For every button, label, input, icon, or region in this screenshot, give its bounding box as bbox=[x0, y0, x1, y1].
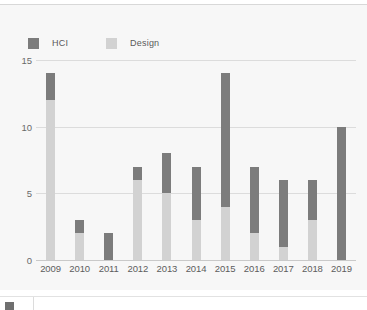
bar-segment-hci[interactable] bbox=[133, 167, 142, 180]
bar-segment-hci[interactable] bbox=[337, 127, 346, 260]
x-axis-tick: 2019 bbox=[327, 263, 356, 274]
bar-stack[interactable] bbox=[75, 220, 84, 260]
plot-area: 15 10 5 0 200920102011201220132014201520… bbox=[0, 5, 367, 291]
bar-segment-hci[interactable] bbox=[308, 180, 317, 220]
y-axis-tick: 10 bbox=[21, 121, 32, 132]
bar-segment-design[interactable] bbox=[250, 233, 259, 260]
bar-segment-hci[interactable] bbox=[250, 167, 259, 234]
bar-stack[interactable] bbox=[250, 167, 259, 260]
bar-segment-hci[interactable] bbox=[75, 220, 84, 233]
bar-column[interactable] bbox=[94, 60, 123, 260]
x-axis-tick: 2018 bbox=[298, 263, 327, 274]
bar-column[interactable] bbox=[36, 60, 65, 260]
x-axis-tick: 2015 bbox=[211, 263, 240, 274]
bar-segment-design[interactable] bbox=[133, 180, 142, 260]
x-axis-tick: 2010 bbox=[65, 263, 94, 274]
bar-column[interactable] bbox=[327, 60, 356, 260]
bar-column[interactable] bbox=[240, 60, 269, 260]
bottom-chip-icon bbox=[5, 302, 14, 310]
bar-segment-hci[interactable] bbox=[162, 153, 171, 193]
bar-stack[interactable] bbox=[279, 180, 288, 260]
bar-stack[interactable] bbox=[192, 167, 201, 260]
bar-segment-design[interactable] bbox=[221, 207, 230, 260]
bar-segment-design[interactable] bbox=[192, 220, 201, 260]
bar-segment-hci[interactable] bbox=[279, 180, 288, 247]
bar-stack[interactable] bbox=[162, 153, 171, 260]
x-axis: 2009201020112012201320142015201620172018… bbox=[36, 263, 356, 274]
bar-segment-design[interactable] bbox=[308, 220, 317, 260]
bar-segment-hci[interactable] bbox=[221, 73, 230, 206]
x-axis-tick: 2013 bbox=[152, 263, 181, 274]
bar-column[interactable] bbox=[269, 60, 298, 260]
bar-column[interactable] bbox=[123, 60, 152, 260]
y-axis-tick: 0 bbox=[27, 255, 32, 266]
bar-column[interactable] bbox=[152, 60, 181, 260]
gridline-0 bbox=[36, 260, 356, 261]
chart-page: HCI Design 15 10 5 0 20092010201120122 bbox=[0, 0, 367, 310]
x-axis-tick: 2012 bbox=[123, 263, 152, 274]
bar-stack[interactable] bbox=[337, 127, 346, 260]
bar-segment-hci[interactable] bbox=[104, 233, 113, 260]
bar-column[interactable] bbox=[211, 60, 240, 260]
x-axis-tick: 2017 bbox=[269, 263, 298, 274]
y-axis-tick: 5 bbox=[27, 188, 32, 199]
x-axis-tick: 2014 bbox=[181, 263, 210, 274]
chart-card: HCI Design 15 10 5 0 20092010201120122 bbox=[0, 4, 367, 290]
bar-stack[interactable] bbox=[46, 73, 55, 260]
bar-segment-design[interactable] bbox=[75, 233, 84, 260]
y-axis-tick: 15 bbox=[21, 55, 32, 66]
bar-segment-design[interactable] bbox=[162, 193, 171, 260]
bar-column[interactable] bbox=[298, 60, 327, 260]
y-axis: 15 10 5 0 bbox=[10, 60, 32, 260]
bar-segment-design[interactable] bbox=[279, 247, 288, 260]
bottom-strip bbox=[0, 296, 367, 310]
x-axis-tick: 2009 bbox=[36, 263, 65, 274]
x-axis-tick: 2016 bbox=[240, 263, 269, 274]
bar-stack[interactable] bbox=[133, 167, 142, 260]
bar-segment-hci[interactable] bbox=[46, 73, 55, 100]
bar-segment-design[interactable] bbox=[46, 100, 55, 260]
bottom-divider bbox=[33, 297, 34, 310]
bar-stack[interactable] bbox=[104, 233, 113, 260]
x-axis-tick: 2011 bbox=[94, 263, 123, 274]
bar-stack[interactable] bbox=[308, 180, 317, 260]
bar-stack[interactable] bbox=[221, 73, 230, 260]
bar-column[interactable] bbox=[65, 60, 94, 260]
bar-group bbox=[36, 60, 356, 260]
bar-segment-hci[interactable] bbox=[192, 167, 201, 220]
bar-column[interactable] bbox=[181, 60, 210, 260]
